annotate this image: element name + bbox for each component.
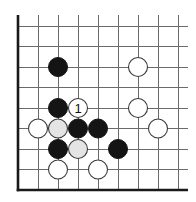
marked-white-stone [69,140,88,159]
move-number-label: 1 [74,101,81,116]
white-stone [89,160,108,179]
black-stone [49,140,68,159]
go-board-diagram: 1 [0,0,196,202]
white-stone [149,119,168,138]
white-stone [129,58,148,77]
white-stone [129,99,148,118]
black-stone [69,119,88,138]
black-stone [89,119,108,138]
black-stone [49,99,68,118]
white-stone [49,160,68,179]
black-stone [49,58,68,77]
move-labels: 1 [74,101,81,116]
white-stone [29,119,48,138]
marked-white-stone [49,119,68,138]
black-stone [109,140,128,159]
